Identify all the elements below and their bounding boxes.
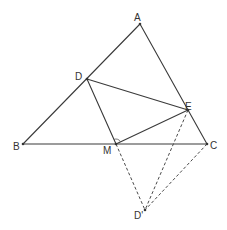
point-D (86, 78, 89, 81)
segment-DM (87, 79, 116, 144)
label-A: A (134, 12, 141, 23)
point-B (22, 143, 25, 146)
segment-ME (116, 110, 188, 144)
labels: A B C D E M D' (13, 12, 217, 221)
point-A (139, 23, 142, 26)
label-D: D (75, 71, 82, 82)
geometry-diagram: A B C D E M D' (0, 0, 227, 230)
label-D-prime: D' (134, 210, 143, 221)
dashed-segment-MD_prime (116, 144, 145, 210)
label-B: B (13, 141, 20, 152)
dashed-segment-ED_prime (145, 110, 188, 210)
segment-AC (140, 24, 207, 144)
label-C: C (210, 140, 217, 151)
point-D_prime (144, 209, 147, 212)
point-C (206, 143, 209, 146)
dashed-segments (116, 110, 207, 210)
label-E: E (185, 101, 192, 112)
point-M (115, 143, 118, 146)
solid-segments (23, 24, 207, 144)
label-M: M (103, 145, 111, 156)
segment-AB (23, 24, 140, 144)
dashed-segment-CD_prime (145, 144, 207, 210)
